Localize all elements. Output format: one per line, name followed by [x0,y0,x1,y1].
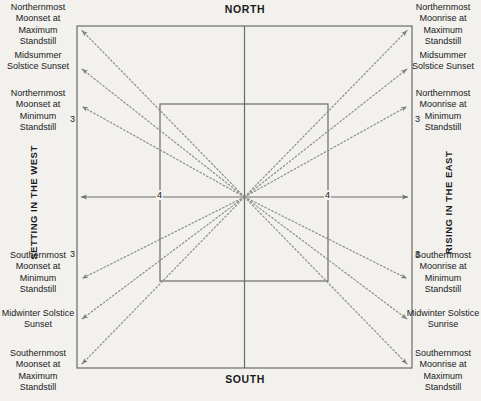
axis-label-rising-in-the-east: RISING IN THE EAST [443,138,454,268]
label-midwinter-solstice-sunrise-east: Midwinter Solstice Sunrise [406,308,480,331]
label-southernmost-moonset-minimum-standstill: Southernmost Moonset at Minimum Standsti… [1,250,75,296]
cardinal-label-north: NORTH [185,3,305,15]
sightline-midsummer-solstice-sunrise [245,69,408,197]
sightline-northernmost-moonset-maximum-standstill [82,31,245,198]
label-northernmost-moonrise-maximum-standstill: Northernmost Moonrise at Maximum Standst… [406,2,480,48]
tick-label-three-southeast: 3 [415,249,420,259]
axis-label-setting-in-the-west: SETTING IN THE WEST [28,138,39,268]
tick-label-three-northeast: 3 [415,114,420,124]
label-northernmost-moonset-maximum-standstill: Northernmost Moonset at Maximum Standsti… [1,2,75,48]
sightline-midwinter-solstice-sunrise [245,197,408,319]
sightline-midsummer-solstice-sunset [82,69,245,197]
cardinal-label-south: SOUTH [185,373,305,385]
sightline-northernmost-moonrise-minimum-standstill [245,107,408,198]
sightline-northernmost-moonrise-maximum-standstill [245,31,408,198]
tick-label-three-northwest: 3 [70,114,75,124]
tick-label-four-east: 4 [324,190,331,200]
label-northernmost-moonrise-minimum-standstill: Northernmost Moonrise at Minimum Standst… [406,88,480,134]
sightline-southernmost-moonrise-minimum-standstill [245,197,408,279]
tick-label-four-west: 4 [156,190,163,200]
label-northernmost-moonset-minimum-standstill: Northernmost Moonset at Minimum Standsti… [1,88,75,134]
horizon-azimuth-diagram: NORTH SOUTH SETTING IN THE WEST RISING I… [0,0,481,401]
sightline-midwinter-solstice-sunset [82,197,245,319]
label-southernmost-moonset-maximum-standstill: Southernmost Moonset at Maximum Standsti… [1,348,75,394]
sightline-northernmost-moonset-minimum-standstill [82,107,245,198]
label-southernmost-moonrise-maximum-standstill: Southernmost Moonrise at Maximum Standst… [406,348,480,394]
label-midwinter-solstice-sunset-west: Midwinter Solstice Sunset [1,308,75,331]
tick-label-three-southwest: 3 [70,249,75,259]
label-midsummer-solstice-sunset-west: Midsummer Solstice Sunset [1,50,75,73]
sightline-southernmost-moonset-minimum-standstill [82,197,245,279]
label-midsummer-solstice-sunset-east: Midsummer Solstice Sunset [406,50,480,73]
